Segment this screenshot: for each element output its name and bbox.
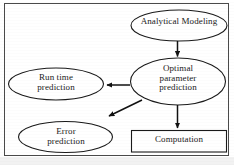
flowchart-diagram [0, 0, 234, 165]
node-analytical-modeling-shape [131, 10, 227, 41]
edge-optimal-to-error [109, 100, 142, 116]
node-computation-shape [132, 131, 227, 153]
page-edge-shade [0, 157, 234, 165]
node-run-time-prediction-shape [9, 68, 104, 100]
node-optimal-parameter-prediction-shape [131, 58, 226, 105]
figure-container: Analytical Modeling Optimal parameter pr… [0, 0, 234, 165]
node-error-prediction-shape [19, 122, 113, 153]
